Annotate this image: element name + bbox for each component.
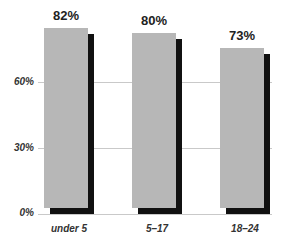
gridline-0 xyxy=(38,214,272,215)
y-tick-30: 30% xyxy=(0,142,34,154)
bar-under-5 xyxy=(44,28,88,208)
x-label-2: 5–17 xyxy=(122,223,192,234)
value-label-1: 82% xyxy=(36,8,96,23)
bar-5-17 xyxy=(132,33,176,208)
x-label-3: 18–24 xyxy=(210,223,280,234)
y-tick-60: 60% xyxy=(0,76,34,88)
y-tick-0: 0% xyxy=(0,207,34,219)
x-label-1: under 5 xyxy=(34,223,104,234)
bar-18-24 xyxy=(220,48,264,208)
value-label-3: 73% xyxy=(212,28,272,43)
value-label-2: 80% xyxy=(124,13,184,28)
